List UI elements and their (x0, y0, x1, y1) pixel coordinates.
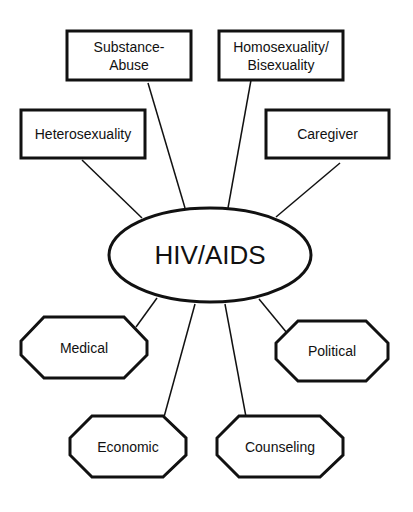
label-line: Caregiver (297, 125, 358, 143)
connector-economic (164, 304, 195, 417)
label-substance-abuse: Substance- Abuse (67, 31, 191, 80)
label-line: Homosexuality/ (233, 38, 329, 56)
label-counseling: Counseling (217, 416, 343, 477)
label-political: Political (276, 321, 388, 381)
label-homosexuality: Homosexuality/ Bisexuality (219, 31, 343, 80)
connector-counseling (225, 304, 246, 417)
label-economic: Economic (70, 416, 186, 477)
label-heterosexuality: Heterosexuality (21, 110, 145, 158)
label-line: Heterosexuality (35, 125, 132, 143)
connector-homosexuality (228, 80, 251, 208)
label-medical: Medical (21, 317, 147, 378)
label-caregiver: Caregiver (266, 110, 389, 158)
label-line: Bisexuality (248, 56, 315, 74)
label-center: HIV/AIDS (109, 208, 311, 302)
connector-substance-abuse (148, 83, 185, 208)
label-line: Abuse (109, 56, 149, 74)
label-line: Substance- (94, 38, 165, 56)
